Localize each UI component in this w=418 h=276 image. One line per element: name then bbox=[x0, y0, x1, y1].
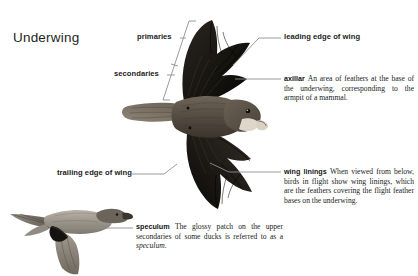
label-secondaries: secondaries bbox=[114, 69, 159, 78]
glossary-term-speculum: speculum bbox=[136, 222, 175, 231]
leader-leading-edge bbox=[233, 38, 281, 65]
glossary-definition-speculum-after: . bbox=[165, 241, 167, 250]
glossary-term-axillar: axillar bbox=[284, 74, 308, 83]
leader-trailing-edge bbox=[132, 164, 177, 174]
glossary-entry-speculum: speculum The glossy patch on the upper s… bbox=[136, 222, 283, 251]
glossary-term-wing-linings: wing linings bbox=[284, 167, 330, 176]
label-leading-edge-of-wing: leading edge of wing bbox=[284, 32, 360, 41]
label-trailing-edge-of-wing: trailing edge of wing bbox=[57, 168, 132, 177]
glossary-entry-axillar: axillar An area of feathers at the base … bbox=[284, 74, 414, 103]
leader-wing-linings bbox=[210, 163, 281, 172]
field-guide-page: Underwing primaries secondaries trailing… bbox=[0, 0, 418, 276]
page-title: Underwing bbox=[13, 30, 79, 45]
label-primaries: primaries bbox=[137, 32, 172, 41]
glossary-entry-wing-linings: wing linings When viewed from below, bir… bbox=[284, 167, 414, 205]
glossary-definition-speculum-italic: speculum bbox=[136, 241, 165, 250]
